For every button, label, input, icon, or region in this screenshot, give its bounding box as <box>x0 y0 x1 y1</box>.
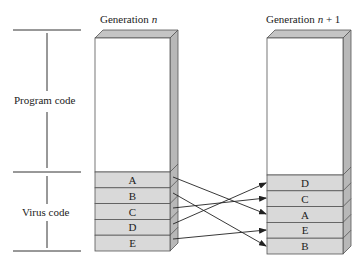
left-block-b-label: B <box>129 190 136 202</box>
program-code-label: Program code <box>14 94 76 106</box>
left-block-c-label: C <box>129 206 136 218</box>
arrow-d <box>173 183 266 224</box>
right-column-title: Generation n + 1 <box>266 13 340 25</box>
diagram-canvas: Generation n Generation n + 1 Program co… <box>0 0 361 260</box>
right-virus-blocks: D C A E B <box>267 167 351 254</box>
left-column: A B C D E <box>95 30 178 251</box>
permutation-arrows <box>173 177 266 246</box>
left-column-title: Generation n <box>100 13 158 25</box>
left-virus-blocks: A B C D E <box>95 164 178 251</box>
right-block-e-label: E <box>302 224 309 236</box>
arrow-a <box>173 177 266 214</box>
right-block-a-label: A <box>301 209 309 221</box>
right-block-d-label: D <box>301 177 309 189</box>
virus-code-label: Virus code <box>22 206 69 218</box>
right-column: D C A E B <box>267 30 351 254</box>
right-block-b-label: B <box>301 240 308 252</box>
left-block-e-label: E <box>129 237 136 249</box>
left-block-a-label: A <box>129 174 137 186</box>
arrow-c <box>173 198 266 208</box>
right-block-c-label: C <box>301 193 308 205</box>
left-block-d-label: D <box>129 221 137 233</box>
